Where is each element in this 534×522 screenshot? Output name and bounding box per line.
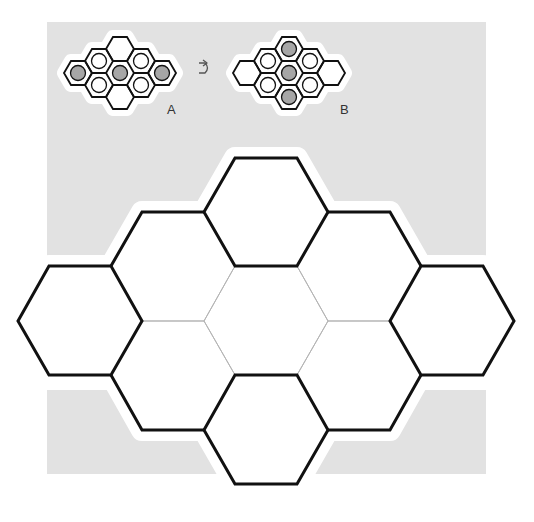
empty-token-icon (134, 78, 149, 93)
example-b-label: B (340, 102, 349, 117)
filled-token-icon (155, 66, 170, 81)
empty-token-icon (261, 78, 276, 93)
filled-token-icon (282, 42, 297, 57)
empty-token-icon (303, 78, 318, 93)
empty-token-icon (261, 54, 276, 69)
empty-token-icon (92, 54, 107, 69)
filled-token-icon (71, 66, 86, 81)
example-a-label: A (167, 102, 176, 117)
empty-token-icon (303, 54, 318, 69)
filled-token-icon (282, 90, 297, 105)
filled-token-icon (282, 66, 297, 81)
empty-token-icon (92, 78, 107, 93)
filled-token-icon (113, 66, 128, 81)
empty-token-icon (134, 54, 149, 69)
puzzle-canvas: A B (0, 0, 534, 522)
